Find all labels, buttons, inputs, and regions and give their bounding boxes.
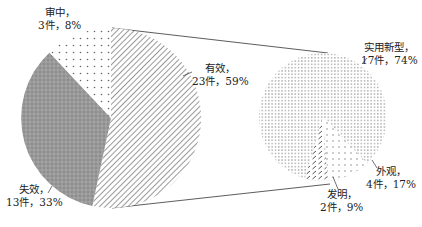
- label-shenzhong: 审中， 3件，8%: [38, 6, 81, 32]
- label-shixiao-value: 13件，33%: [6, 196, 63, 209]
- label-shixiao-name: 失效，: [6, 183, 63, 196]
- label-faming: 发明， 2件，9%: [320, 188, 363, 214]
- label-youxiao-name: 有效，: [192, 62, 249, 75]
- label-shixiao: 失效， 13件，33%: [6, 183, 63, 209]
- label-shenzhong-value: 3件，8%: [38, 19, 81, 32]
- label-waiguan: 外观， 4件，17%: [366, 165, 416, 191]
- label-waiguan-value: 4件，17%: [366, 178, 416, 191]
- label-shiyongxinxing-name: 实用新型，: [361, 41, 418, 54]
- label-shiyongxinxing: 实用新型， 17件，74%: [361, 41, 418, 67]
- label-waiguan-name: 外观，: [366, 165, 416, 178]
- label-youxiao: 有效， 23件，59%: [192, 62, 249, 88]
- label-shiyongxinxing-value: 17件，74%: [361, 54, 418, 67]
- label-shenzhong-name: 审中，: [38, 6, 81, 19]
- label-faming-name: 发明，: [320, 188, 363, 201]
- label-youxiao-value: 23件，59%: [192, 75, 249, 88]
- label-faming-value: 2件，9%: [320, 201, 363, 214]
